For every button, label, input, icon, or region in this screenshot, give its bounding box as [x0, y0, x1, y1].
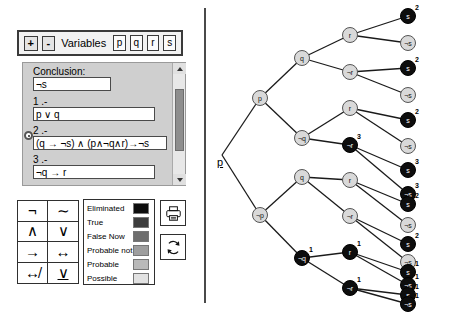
legend-row-possible: Possible: [87, 272, 154, 285]
tree-edges: [210, 0, 462, 309]
tree-node-l4[interactable]: ¬s: [400, 87, 416, 103]
tree-node-superscript-l11: 2: [415, 232, 419, 239]
tree-node-l16[interactable]: ¬s: [400, 296, 416, 312]
remove-variable-button[interactable]: -: [42, 36, 56, 51]
tree-node-n6[interactable]: ¬r: [342, 208, 358, 224]
tree-node-superscript-l14: 1: [415, 273, 419, 280]
operator-and[interactable]: ∧: [18, 222, 48, 243]
operator-tilde-not[interactable]: ∼: [48, 201, 78, 222]
scrollbar-thumb[interactable]: [175, 89, 184, 151]
premises-scroll-area: Conclusion: ¬s 1 .- p ∨ q 2 .- (q → ¬s) …: [23, 63, 171, 185]
tree-node-l10[interactable]: ¬s: [400, 217, 416, 233]
conclusion-input[interactable]: ¬s: [33, 77, 111, 91]
operator-not-biconditional[interactable]: ↮: [18, 263, 48, 284]
legend-row-probable-not: Probable not: [87, 244, 154, 257]
line-1-input[interactable]: p ∨ q: [33, 107, 155, 121]
operator-biconditional[interactable]: ↔: [48, 242, 78, 263]
tree-node-n8[interactable]: ¬r: [342, 280, 358, 296]
tree-node-n1[interactable]: r: [342, 27, 358, 43]
vertical-divider: [204, 8, 206, 303]
line-1-number: 1 .-: [33, 96, 47, 107]
legend-swatch-false-now: [133, 231, 149, 242]
tree-node-superscript-l8: 3: [415, 182, 419, 189]
tree-node-l1[interactable]: s: [400, 8, 416, 24]
tree-node-np-q[interactable]: q: [294, 169, 310, 185]
legend-label-possible: Possible: [87, 274, 133, 283]
tree-node-n5[interactable]: r: [342, 172, 358, 188]
variable-key-q[interactable]: q: [130, 35, 143, 51]
tree-node-superscript-np-nq: 1: [309, 246, 313, 253]
legend-label-false-now: False Now: [87, 232, 133, 241]
premises-panel: Conclusion: ¬s 1 .- p ∨ q 2 .- (q → ¬s) …: [22, 62, 186, 186]
tree-root-label: p: [217, 156, 223, 168]
refresh-button[interactable]: [160, 234, 186, 260]
tree-node-l7[interactable]: s: [400, 162, 416, 178]
scroll-up-button[interactable]: [173, 63, 186, 74]
tree-node-superscript-l3: 2: [415, 56, 419, 63]
tree-node-superscript-l15: 1: [415, 283, 419, 290]
tree-node-superscript-l16: 1: [415, 292, 419, 299]
line-2-number: 2 .-: [33, 125, 47, 136]
tree-edge: [222, 98, 260, 155]
legend-swatch-true: [133, 217, 149, 228]
tree-node-p[interactable]: p: [252, 90, 268, 106]
legend-row-false-now: False Now: [87, 230, 154, 243]
variable-key-p[interactable]: p: [113, 35, 126, 51]
add-variable-button[interactable]: +: [24, 36, 38, 51]
tree-node-n2[interactable]: ¬r: [342, 64, 358, 80]
tree-edge: [222, 155, 260, 215]
tree-edge: [350, 72, 408, 95]
line-2-input[interactable]: (q → ¬s) ∧ (p∧¬q∧r)→¬s: [33, 136, 167, 150]
printer-icon: [165, 205, 182, 222]
legend-label-probable: Probable: [87, 260, 133, 269]
operator-or[interactable]: ∨: [48, 222, 78, 243]
state-legend: Eliminated True False Now Probable not P…: [83, 199, 155, 285]
tree-node-superscript-n4: 3: [357, 133, 361, 140]
variables-toolbar: + - Variables p q r s: [17, 30, 183, 56]
line-3-number: 3 .-: [33, 154, 47, 165]
tree-edge: [260, 58, 302, 98]
variable-key-s[interactable]: s: [163, 35, 176, 51]
operator-keypad: ¬ ∼ ∧ ∨ → ↔ ↮ ∨: [17, 200, 79, 284]
tree-node-l9[interactable]: s: [400, 196, 416, 212]
legend-label-eliminated: Eliminated: [87, 204, 133, 213]
conclusion-label: Conclusion:: [33, 66, 85, 77]
print-button[interactable]: [160, 200, 186, 226]
legend-label-probable-not: Probable not: [87, 246, 133, 255]
tree-node-np-nq[interactable]: ¬q: [294, 250, 310, 266]
tree-node-p-nq[interactable]: ¬q: [294, 130, 310, 146]
tree-node-l3[interactable]: s: [400, 60, 416, 76]
premises-scrollbar[interactable]: [172, 63, 185, 185]
tree-node-n3[interactable]: r: [342, 100, 358, 116]
operator-implies[interactable]: →: [18, 242, 48, 263]
tree-node-l5[interactable]: s: [400, 112, 416, 128]
decision-tree: p¬pq¬qq¬q1r¬rr¬r3r¬rr1¬r1s2¬ss2¬ss2¬ss3¬…: [210, 0, 462, 309]
tree-node-l2[interactable]: ¬s: [400, 35, 416, 51]
scroll-down-button[interactable]: [173, 174, 186, 185]
legend-row-eliminated: Eliminated: [87, 202, 154, 215]
tree-node-n7[interactable]: r: [342, 244, 358, 260]
tree-node-superscript-l13: 1: [415, 260, 419, 267]
operator-exclusive-or[interactable]: ∨: [48, 263, 78, 284]
triangle-up-icon: [177, 67, 183, 71]
line-3-input[interactable]: ¬q → r: [33, 165, 155, 179]
tree-node-superscript-l7: 3: [415, 158, 419, 165]
legend-swatch-probable: [133, 259, 149, 270]
tree-node-l11[interactable]: s: [400, 236, 416, 252]
legend-swatch-probable-not: [133, 245, 149, 256]
tree-node-p-q[interactable]: q: [294, 50, 310, 66]
tree-node-l6[interactable]: ¬s: [400, 138, 416, 154]
tree-edge: [350, 145, 408, 170]
triangle-down-icon: [177, 178, 183, 182]
tree-node-np[interactable]: ¬p: [252, 207, 268, 223]
tree-node-superscript-n7: 1: [357, 240, 361, 247]
tree-node-superscript-n8: 1: [357, 276, 361, 283]
tree-node-n4[interactable]: ¬r: [342, 137, 358, 153]
legend-row-probable: Probable: [87, 258, 154, 271]
line-2-radio[interactable]: [24, 131, 33, 140]
legend-row-true: True: [87, 216, 154, 229]
legend-swatch-possible: [133, 273, 149, 284]
variable-key-r[interactable]: r: [147, 35, 160, 51]
operator-not[interactable]: ¬: [18, 201, 48, 222]
